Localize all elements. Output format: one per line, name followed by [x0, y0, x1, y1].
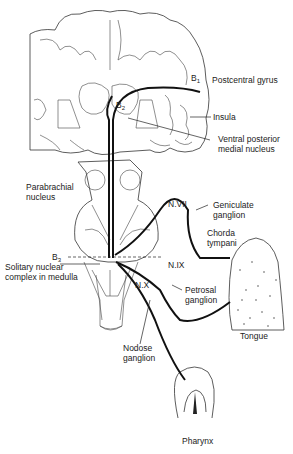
label-parabrachial-line2: nucleus: [26, 192, 74, 202]
label-petrosal-line1: Petrosal: [185, 285, 217, 295]
tongue: [229, 238, 284, 330]
label-petrosal: Petrosal ganglion: [185, 285, 217, 305]
label-solitary-line1: Solitary nuclear: [5, 262, 78, 272]
label-postcentral-gyrus: Postcentral gyrus: [212, 75, 278, 85]
label-chorda: Chorda tympani: [207, 228, 237, 248]
label-solitary-line2: complex in medulla: [5, 272, 78, 282]
label-nvii: N.VII: [168, 199, 187, 209]
label-geniculate-line2: ganglion: [213, 210, 254, 220]
label-geniculate: Geniculate ganglion: [213, 200, 254, 220]
gustatory-pathway-diagram: [0, 0, 293, 454]
label-nodose-line2: ganglion: [123, 353, 155, 363]
label-nx: N.X: [135, 280, 149, 290]
label-chorda-line2: tympani: [207, 238, 237, 248]
label-nodose-line1: Nodose: [123, 343, 155, 353]
label-b2-sub: 2: [122, 105, 125, 111]
label-tongue: Tongue: [240, 331, 268, 341]
brain-coronal-section: [30, 10, 209, 154]
label-b1: B1: [191, 73, 200, 86]
label-vpm: Ventral posterior medial nucleus: [218, 134, 280, 154]
label-vpm-line2: medial nucleus: [218, 144, 280, 154]
label-chorda-line1: Chorda: [207, 228, 237, 238]
label-nodose: Nodose ganglion: [123, 343, 155, 363]
label-b2: B2: [116, 100, 125, 113]
brainstem: [75, 160, 159, 330]
label-insula: Insula: [213, 112, 236, 122]
label-vpm-line1: Ventral posterior: [218, 134, 280, 144]
label-parabrachial: Parabrachial nucleus: [26, 182, 74, 202]
label-b1-sub: 1: [197, 78, 200, 84]
label-petrosal-line2: ganglion: [185, 295, 217, 305]
label-nix: N.IX: [168, 260, 185, 270]
label-parabrachial-line1: Parabrachial: [26, 182, 74, 192]
label-pharynx: Pharynx: [182, 436, 213, 446]
label-geniculate-line1: Geniculate: [213, 200, 254, 210]
label-solitary: Solitary nuclear complex in medulla: [5, 262, 78, 282]
